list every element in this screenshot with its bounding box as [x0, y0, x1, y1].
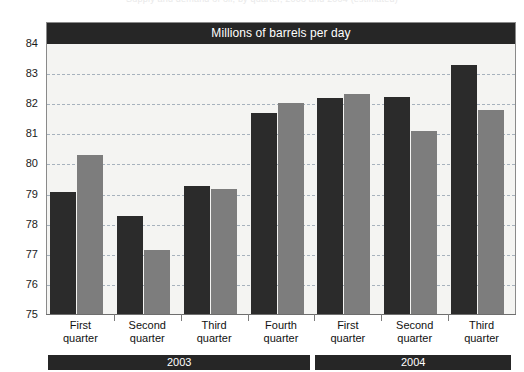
- bar: [117, 216, 143, 315]
- y-axis-tick-84: 84: [26, 37, 38, 49]
- bar: [278, 103, 304, 315]
- bar: [451, 65, 477, 315]
- x-axis-label: Thirdquarter: [448, 319, 515, 345]
- bar-group: [248, 44, 315, 315]
- y-axis-tick-79: 79: [26, 188, 38, 200]
- x-axis-label: Secondquarter: [381, 319, 448, 345]
- bars-layer: [47, 44, 515, 315]
- chart-page: Supply and demand of oil, by quarter, 20…: [0, 0, 524, 372]
- x-axis-label-line: Third: [448, 319, 515, 332]
- bar: [77, 155, 103, 315]
- y-axis: 75767778798081828384: [0, 20, 46, 320]
- x-axis-label-line: quarter: [181, 332, 248, 345]
- bar-group: [314, 44, 381, 315]
- x-axis-label-line: Third: [181, 319, 248, 332]
- x-axis-label-line: Fourth: [248, 319, 315, 332]
- bar: [144, 250, 170, 315]
- y-axis-tick-83: 83: [26, 67, 38, 79]
- bar-group: [114, 44, 181, 315]
- top-caption: Supply and demand of oil, by quarter, 20…: [0, 0, 524, 6]
- x-axis-tick: [114, 314, 115, 321]
- plot-area: [47, 44, 515, 315]
- x-axis-label-line: Second: [114, 319, 181, 332]
- x-axis-label-line: quarter: [314, 332, 381, 345]
- x-axis-label: Firstquarter: [314, 319, 381, 345]
- x-axis-label-line: quarter: [448, 332, 515, 345]
- x-axis-tick: [381, 314, 382, 321]
- x-axis-tick: [248, 314, 249, 321]
- x-axis-label: Firstquarter: [47, 319, 114, 345]
- plot-frame: Millions of barrels per day: [46, 22, 516, 314]
- bar-group: [47, 44, 114, 315]
- y-axis-tick-76: 76: [26, 278, 38, 290]
- chart-title: Millions of barrels per day: [47, 23, 515, 44]
- y-axis-tick-80: 80: [26, 157, 38, 169]
- bar: [411, 131, 437, 315]
- x-axis-tick: [448, 314, 449, 321]
- bar-group: [381, 44, 448, 315]
- x-axis-label-line: Second: [381, 319, 448, 332]
- bar: [211, 189, 237, 315]
- year-band-2003: 2003: [48, 355, 310, 370]
- x-axis-label-line: quarter: [114, 332, 181, 345]
- year-band-2004: 2004: [315, 355, 511, 370]
- x-axis-label-line: quarter: [381, 332, 448, 345]
- bar: [344, 94, 370, 315]
- x-axis-label: Fourthquarter: [248, 319, 315, 345]
- x-axis-line: [46, 314, 516, 315]
- y-axis-tick-81: 81: [26, 127, 38, 139]
- y-axis-tick-75: 75: [26, 308, 38, 320]
- x-axis-label-line: First: [314, 319, 381, 332]
- bar: [184, 186, 210, 315]
- x-axis-label-line: First: [47, 319, 114, 332]
- bar: [384, 97, 410, 315]
- bar: [478, 110, 504, 315]
- x-axis-label-line: quarter: [47, 332, 114, 345]
- x-axis-label: Secondquarter: [114, 319, 181, 345]
- x-axis-label-line: quarter: [248, 332, 315, 345]
- x-axis-tick: [181, 314, 182, 321]
- y-axis-tick-77: 77: [26, 248, 38, 260]
- bar-group: [181, 44, 248, 315]
- x-axis-tick: [314, 314, 315, 321]
- bar: [317, 98, 343, 315]
- x-axis: FirstquarterSecondquarterThirdquarterFou…: [46, 314, 516, 372]
- bar: [251, 113, 277, 315]
- x-axis-label: Thirdquarter: [181, 319, 248, 345]
- y-axis-tick-82: 82: [26, 97, 38, 109]
- bar: [50, 192, 76, 315]
- y-axis-tick-78: 78: [26, 218, 38, 230]
- bar-group: [448, 44, 515, 315]
